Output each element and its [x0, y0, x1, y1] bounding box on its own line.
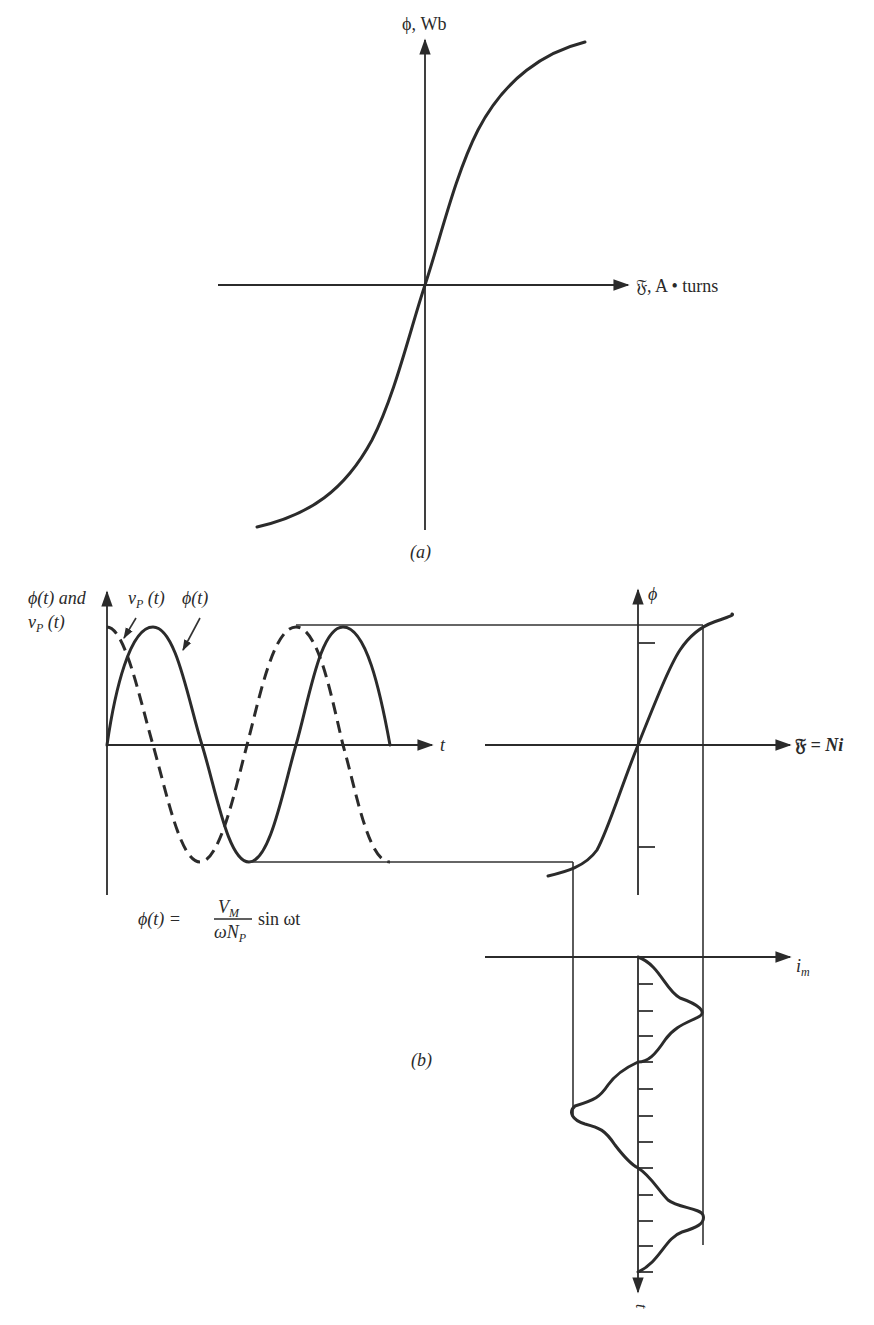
mmf-axis-label: 𝔉, A • turns — [636, 276, 718, 296]
caption-b: (b) — [411, 1050, 432, 1071]
projection-lines — [249, 625, 703, 1245]
part-b-waveforms: ϕ(t) and vP (t) vP (t) ϕ(t) t ϕ(t) = VM … — [28, 588, 446, 1071]
part-b-magnetizing-current: im t — [485, 956, 810, 1309]
equation-rhs: sin ωt — [258, 909, 300, 929]
waveform-y-label-line2: vP (t) — [28, 612, 65, 635]
vp-pointer-label: vP (t) — [128, 588, 165, 611]
part-b-magnetization: ϕ 𝔉 = Ni — [485, 584, 843, 895]
right-flux-axis-label: ϕ — [648, 584, 657, 604]
time-axis-label: t — [440, 735, 446, 755]
current-axis-label: im — [796, 956, 810, 979]
vp-pointer-arrow — [124, 618, 136, 638]
waveform-y-label-line1: ϕ(t) and — [28, 588, 87, 609]
magnetization-diagram: ϕ, Wb 𝔉, A • turns (a) ϕ(t) and vP (t) v… — [0, 0, 874, 1325]
equation-numerator: VM — [218, 897, 240, 920]
part-a-plot: ϕ, Wb 𝔉, A • turns (a) — [218, 14, 718, 563]
right-mmf-ni-text: = Ni — [806, 735, 843, 755]
mmf-unit-text: , A • turns — [647, 276, 718, 296]
flux-axis-label: ϕ, Wb — [402, 14, 446, 34]
caption-a: (a) — [410, 542, 431, 563]
flux-equation: ϕ(t) = VM ωNP sin ωt — [138, 897, 300, 945]
right-mmf-axis-label: 𝔉 = Ni — [795, 735, 843, 755]
mmf-script-f-symbol: 𝔉 — [636, 276, 647, 296]
equation-lhs: ϕ(t) = — [138, 909, 181, 930]
current-time-ticks — [638, 984, 653, 1272]
phi-pointer-label: ϕ(t) — [182, 588, 208, 609]
phi-pointer-arrow — [183, 618, 200, 650]
equation-denominator: ωNP — [214, 922, 247, 945]
current-time-axis-label: t — [633, 1304, 650, 1309]
